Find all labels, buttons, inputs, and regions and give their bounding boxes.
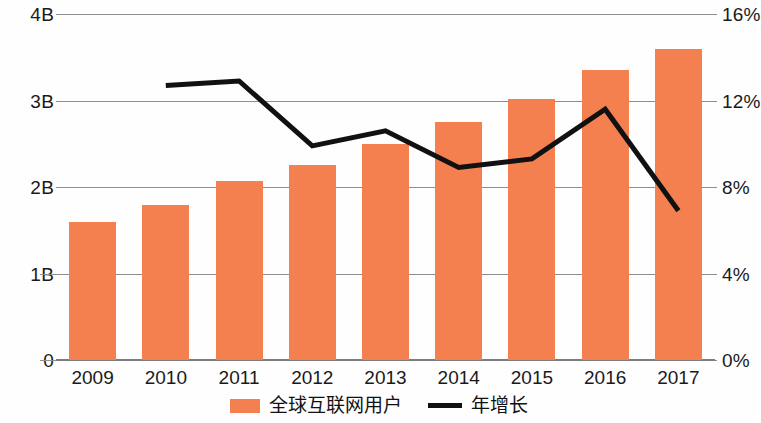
x-axis-tick-label: 2015	[495, 368, 568, 387]
legend-bar-swatch-icon	[230, 399, 260, 413]
legend-label-global-internet-users: 全球互联网用户	[269, 396, 402, 415]
x-axis-tick-label: 2010	[129, 368, 202, 387]
y-axis-right-tick-label: 4%	[722, 265, 750, 284]
x-axis-tick-label: 2017	[642, 368, 715, 387]
y-axis-left-tick-label: 2B	[30, 178, 54, 197]
y-axis-left-tick-label: 3B	[30, 92, 54, 111]
line-series-annual-growth	[56, 14, 715, 360]
y-axis-right-tick-label: 16%	[722, 5, 761, 24]
legend-line-swatch-icon	[428, 403, 462, 408]
y-axis-left-tick-mark	[40, 360, 56, 361]
legend-label-annual-growth: 年增长	[471, 396, 528, 415]
x-axis-tick-label: 2012	[276, 368, 349, 387]
legend-item-global-internet-users: 全球互联网用户	[230, 396, 402, 415]
legend-item-annual-growth: 年增长	[428, 396, 528, 415]
x-axis-tick-label: 2011	[202, 368, 275, 387]
y-axis-right-tick-label: 8%	[722, 178, 750, 197]
x-axis-tick-label: 2009	[56, 368, 129, 387]
x-axis-tick-label: 2013	[349, 368, 422, 387]
plot-area	[56, 14, 715, 360]
x-axis-tick-label: 2014	[422, 368, 495, 387]
chart-legend: 全球互联网用户 年增长	[0, 396, 757, 415]
y-axis-left-tick-label: 4B	[30, 5, 54, 24]
y-axis-right-tick-label: 0%	[722, 351, 750, 370]
x-axis-tick-label: 2016	[569, 368, 642, 387]
y-axis-left-tick-mark	[40, 274, 56, 275]
y-axis-right-tick-label: 12%	[722, 92, 761, 111]
